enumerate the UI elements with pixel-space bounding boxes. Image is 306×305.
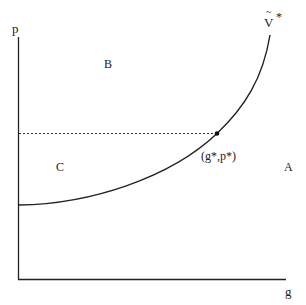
v-star-curve [19,35,270,205]
x-axis-label: g [285,284,292,299]
equilibrium-point [215,131,220,136]
curve-label-base: V [264,15,274,30]
region-a-label: A [284,160,293,174]
equilibrium-point-label: (g*,p*) [201,149,236,163]
diagram-canvas: p g B C A (g*,p*) ~ V * [0,0,306,305]
y-axis-label: p [12,21,19,36]
region-b-label: B [104,57,112,71]
curve-label-superscript: * [276,10,282,24]
region-c-label: C [56,160,64,174]
curve-label: ~ V * [264,6,282,30]
